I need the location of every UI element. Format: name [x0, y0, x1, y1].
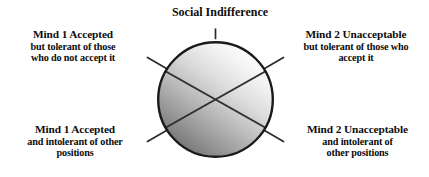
quadrant-label-bottom-left-line3: positions [2, 147, 148, 158]
quadrant-label-bottom-right-line3: other positions [286, 147, 429, 158]
quadrant-label-bottom-right-line2: and intolerant of [286, 136, 429, 147]
quadrant-label-top-left: Mind 1 Accepted but tolerant of those wh… [2, 28, 144, 63]
quadrant-label-top-left-line3: who do not accept it [2, 52, 144, 63]
quadrant-label-top-right-line2: but tolerant of those who [283, 41, 429, 52]
quadrant-label-bottom-left-line1: Mind 1 Accepted [2, 123, 148, 136]
diagram-figure: Social Indifference [0, 0, 429, 177]
quadrant-label-top-left-line2: but tolerant of those [2, 41, 144, 52]
quadrant-label-top-left-line1: Mind 1 Accepted [2, 28, 144, 41]
quadrant-label-top-right-line1: Mind 2 Unacceptable [283, 28, 429, 41]
quadrant-label-bottom-left: Mind 1 Accepted and intolerant of other … [2, 123, 148, 158]
quadrant-label-bottom-right: Mind 2 Unacceptable and intolerant of ot… [286, 123, 429, 158]
quadrant-label-top-right-line3: accept it [283, 52, 429, 63]
quadrant-label-bottom-left-line2: and intolerant of other [2, 136, 148, 147]
quadrant-label-bottom-right-line1: Mind 2 Unacceptable [286, 123, 429, 136]
quadrant-label-top-right: Mind 2 Unacceptable but tolerant of thos… [283, 28, 429, 63]
